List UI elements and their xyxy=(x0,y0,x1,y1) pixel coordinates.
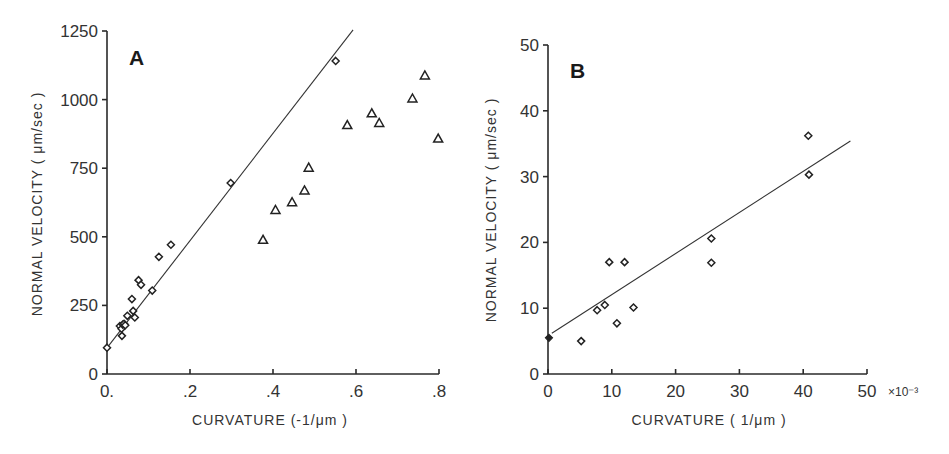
x-tick-label: 30 xyxy=(730,382,749,401)
y-axis-label: NORMAL VELOCITY ( μm/sec ) xyxy=(483,98,499,323)
triangle-marker xyxy=(271,205,280,213)
diamond-marker xyxy=(621,259,628,266)
y-tick-label: 50 xyxy=(520,36,539,55)
triangle-marker xyxy=(300,186,309,194)
diamond-marker xyxy=(613,320,620,327)
regression-line xyxy=(107,30,353,348)
diamond-marker xyxy=(708,235,715,242)
diamond-marker xyxy=(805,132,812,139)
x-tick-label: 0 xyxy=(543,382,552,401)
triangle-marker xyxy=(434,134,443,142)
x-tick-label: 20 xyxy=(666,382,685,401)
y-tick-label: 1000 xyxy=(60,91,98,110)
triangle-marker xyxy=(288,198,297,206)
diamond-marker xyxy=(578,338,585,345)
y-tick-label: 0 xyxy=(89,365,98,384)
x-tick-label: .8 xyxy=(432,382,446,401)
y-tick-label: 250 xyxy=(70,296,98,315)
diamond-marker xyxy=(118,332,125,339)
triangle-marker xyxy=(343,121,352,129)
diamond-marker xyxy=(167,241,174,248)
regression-line xyxy=(552,141,851,333)
diamond-marker xyxy=(155,253,162,260)
panel-label: A xyxy=(129,46,144,69)
triangle-marker xyxy=(259,235,268,243)
triangle-marker xyxy=(408,94,417,102)
y-axis-label: NORMAL VELOCITY ( μm/sec ) xyxy=(29,92,45,317)
chart-a: 0250500750100012500..2.4.6.8ACURVATURE (… xyxy=(29,22,446,428)
x-axis-label: CURVATURE ( 1/μm ) xyxy=(631,412,786,428)
y-tick-label: 0 xyxy=(530,365,539,384)
x-tick-label: 10 xyxy=(602,382,621,401)
x-tick-label: 40 xyxy=(794,382,813,401)
y-tick-label: 30 xyxy=(520,168,539,187)
diamond-marker xyxy=(601,301,608,308)
figure: 0250500750100012500..2.4.6.8ACURVATURE (… xyxy=(0,0,949,454)
x-axis-label: CURVATURE (-1/μm ) xyxy=(192,412,348,428)
x-tick-label: .2 xyxy=(183,382,197,401)
diamond-marker xyxy=(606,259,613,266)
chart-b: 0102030405001020304050BCURVATURE ( 1/μm … xyxy=(483,36,918,428)
triangle-marker xyxy=(375,118,384,126)
x-tick-label: 0. xyxy=(100,382,114,401)
y-tick-label: 1250 xyxy=(60,22,98,41)
filled-diamond-marker xyxy=(545,334,552,341)
triangle-marker xyxy=(367,109,376,117)
diamond-marker xyxy=(332,57,339,64)
triangle-marker xyxy=(420,71,429,79)
y-tick-label: 500 xyxy=(70,228,98,247)
x-tick-label: .4 xyxy=(266,382,280,401)
x-multiplier-label: ×10⁻³ xyxy=(888,385,918,399)
diamond-marker xyxy=(128,296,135,303)
y-tick-label: 40 xyxy=(520,102,539,121)
diamond-marker xyxy=(708,259,715,266)
diamond-marker xyxy=(130,307,137,314)
y-tick-label: 750 xyxy=(70,159,98,178)
y-tick-label: 20 xyxy=(520,233,539,252)
triangle-marker xyxy=(304,163,313,171)
panel-label: B xyxy=(570,59,585,82)
x-tick-label: .6 xyxy=(349,382,363,401)
diamond-marker xyxy=(630,304,637,311)
diamond-marker xyxy=(805,171,812,178)
diamond-marker xyxy=(594,307,601,314)
x-tick-label: 50 xyxy=(858,382,877,401)
y-tick-label: 10 xyxy=(520,299,539,318)
